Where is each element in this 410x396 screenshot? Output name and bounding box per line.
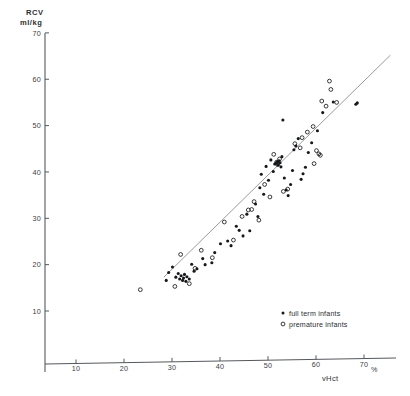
data-point: [222, 220, 226, 224]
y-axis-title-line1: RCV: [26, 8, 44, 17]
data-point: [182, 277, 185, 280]
data-point: [281, 190, 285, 194]
data-point: [174, 276, 177, 279]
y-tick-label-20: 20: [33, 260, 41, 269]
data-point: [190, 263, 193, 266]
x-tick-label-20: 20: [120, 364, 128, 373]
data-point: [272, 152, 276, 156]
y-tick-label-70: 70: [33, 29, 41, 38]
data-point: [328, 79, 332, 83]
data-point: [256, 215, 259, 218]
data-point: [262, 193, 265, 196]
data-point: [321, 111, 324, 114]
data-point: [268, 195, 272, 199]
data-point: [310, 141, 313, 144]
data-point: [292, 148, 295, 151]
data-point: [210, 256, 214, 260]
data-point: [210, 261, 213, 264]
data-point: [332, 100, 335, 103]
data-point: [335, 101, 339, 105]
data-point: [179, 253, 183, 257]
data-point: [260, 173, 263, 176]
data-point: [254, 202, 257, 205]
y-tick-label-10: 10: [33, 307, 41, 316]
data-point: [287, 194, 290, 197]
data-point: [320, 99, 324, 103]
series-full-term-infants: [165, 100, 359, 282]
y-axis-title-line2: ml/kg: [20, 18, 42, 27]
data-point: [356, 101, 359, 104]
data-point: [304, 166, 307, 169]
data-point: [199, 248, 203, 252]
data-point: [316, 129, 319, 132]
data-point: [188, 277, 191, 280]
series-premature-infants: [138, 79, 338, 291]
y-tick-label-50: 50: [33, 121, 41, 130]
data-point: [269, 158, 272, 161]
legend: full term infants premature infants: [281, 310, 348, 329]
data-point: [305, 130, 309, 134]
data-point: [238, 229, 241, 232]
data-point: [167, 271, 170, 274]
data-point: [240, 215, 244, 219]
x-axis-ticks: 10203040506070: [72, 355, 368, 374]
data-point: [195, 267, 198, 270]
data-point: [232, 238, 236, 242]
scatter-plot-svg: 10203040506070 10203040506070 RCV ml/kg …: [0, 0, 410, 396]
data-point: [235, 225, 238, 228]
data-point: [193, 270, 196, 273]
data-point: [312, 162, 316, 166]
data-point: [297, 137, 300, 140]
x-axis: 10203040506070: [45, 355, 396, 374]
data-point: [294, 144, 297, 147]
y-tick-label-30: 30: [33, 214, 41, 223]
data-point: [281, 118, 284, 121]
data-point: [265, 165, 268, 168]
data-point: [272, 170, 275, 173]
data-point: [187, 282, 191, 286]
legend-marker-premature: [281, 322, 285, 326]
legend-marker-full-term: [282, 312, 285, 315]
data-point: [301, 172, 304, 175]
data-point: [311, 125, 315, 129]
data-point: [165, 279, 168, 282]
data-point: [180, 274, 183, 277]
data-point: [258, 186, 261, 189]
data-point: [138, 288, 142, 292]
x-tick-label-60: 60: [312, 360, 320, 369]
x-tick-label-50: 50: [264, 361, 272, 370]
y-tick-label-40: 40: [33, 168, 41, 177]
data-point: [201, 257, 204, 260]
data-point: [285, 188, 288, 191]
data-point: [184, 280, 187, 283]
data-point: [278, 161, 281, 164]
x-tick-label-10: 10: [72, 364, 80, 373]
data-point: [226, 239, 229, 242]
data-point: [289, 183, 292, 186]
legend-label-premature: premature infants: [289, 321, 348, 329]
data-point: [173, 285, 177, 289]
legend-label-full-term: full term infants: [289, 310, 341, 318]
y-tick-label-60: 60: [33, 75, 41, 84]
data-point: [300, 136, 304, 140]
data-point: [241, 234, 244, 237]
data-point: [183, 273, 186, 276]
data-point: [263, 183, 267, 187]
x-tick-label-30: 30: [168, 363, 176, 372]
data-point: [283, 176, 286, 179]
data-point: [267, 179, 270, 182]
data-point: [298, 146, 302, 150]
data-point: [248, 229, 251, 232]
data-point: [245, 213, 248, 216]
data-point: [324, 104, 328, 108]
data-point: [257, 218, 261, 222]
x-axis-title: vHct: [322, 374, 339, 383]
y-axis: 10203040506070: [33, 29, 49, 373]
data-point: [219, 242, 222, 245]
data-point: [177, 272, 180, 275]
data-point: [329, 88, 333, 92]
data-point: [279, 165, 282, 168]
data-point: [213, 251, 216, 254]
data-point: [300, 178, 303, 181]
data-point: [204, 263, 207, 266]
